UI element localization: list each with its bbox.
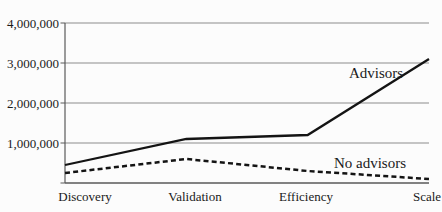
x-axis-category-label: Validation (168, 189, 222, 204)
y-axis-tick-label: 3,000,000 (7, 56, 59, 71)
y-axis-tick-label: 4,000,000 (7, 16, 59, 31)
y-axis-tick-label: 2,000,000 (7, 96, 59, 111)
series-annotation-no-advisors: No advisors (334, 155, 406, 171)
x-axis-category-label: Discovery (58, 189, 112, 204)
line-chart-figure: 1,000,0002,000,0003,000,0004,000,000Disc… (0, 0, 442, 212)
chart-svg: 1,000,0002,000,0003,000,0004,000,000Disc… (0, 0, 442, 212)
x-axis-category-label: Efficiency (279, 189, 333, 204)
series-annotation-advisors: Advisors (349, 65, 403, 81)
x-axis-category-label: Scale (413, 189, 441, 204)
y-axis-tick-label: 1,000,000 (7, 136, 59, 151)
